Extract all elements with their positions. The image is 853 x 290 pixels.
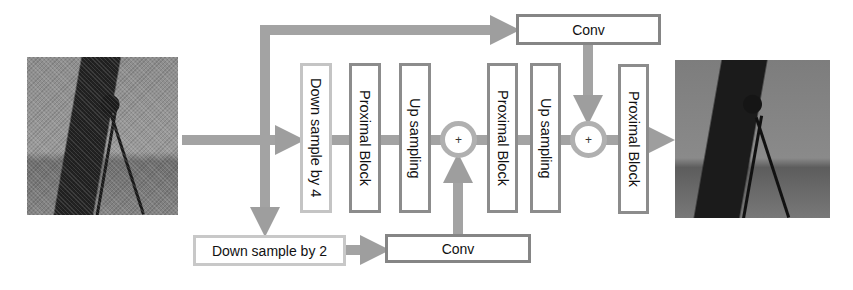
- proximal-block-3: Proximal Block: [618, 64, 649, 214]
- output-denoised-image: [675, 60, 830, 218]
- up-sampling-block-1: Up sampling: [399, 63, 431, 213]
- block-label: Proximal Block: [495, 90, 511, 186]
- tripod-shape: [755, 117, 790, 218]
- block-label: Conv: [572, 22, 605, 38]
- block-label: Down sample by 2: [212, 243, 327, 259]
- plus-icon: +: [455, 133, 462, 147]
- conv-block-top: Conv: [516, 14, 661, 45]
- block-label: Up sampling: [538, 98, 554, 179]
- conv-block-bottom: Conv: [385, 234, 531, 263]
- plus-icon: +: [585, 133, 592, 147]
- sum-node-1: +: [440, 121, 477, 158]
- up-sampling-block-2: Up sampling: [530, 63, 561, 213]
- noise-overlay: [27, 57, 178, 215]
- sum-node-2: +: [570, 121, 607, 158]
- block-label: Up sampling: [407, 98, 423, 179]
- block-label: Proximal Block: [626, 91, 642, 187]
- block-label: Down sample by 4: [308, 78, 324, 197]
- block-label: Proximal Block: [357, 90, 373, 186]
- block-label: Conv: [442, 241, 475, 257]
- down-sample-by-2-block: Down sample by 2: [193, 235, 346, 266]
- proximal-block-2: Proximal Block: [487, 63, 518, 213]
- down-sample-by-4-block: Down sample by 4: [300, 63, 332, 213]
- proximal-block-1: Proximal Block: [349, 63, 381, 213]
- input-noisy-image: [27, 57, 178, 215]
